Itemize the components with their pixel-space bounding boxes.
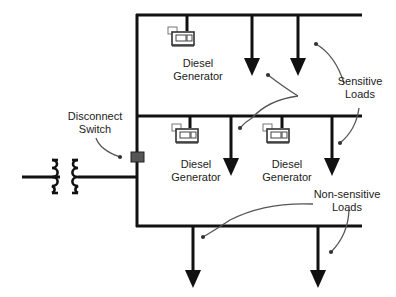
load-arrow-icon xyxy=(185,270,201,288)
transformer-icon xyxy=(52,160,78,193)
load-arrow-icon xyxy=(244,58,260,76)
load-arrow-icon xyxy=(223,158,239,176)
label-gen-mid-left: Diesel Generator xyxy=(168,158,224,184)
label-gen-mid-right: Diesel Generator xyxy=(259,158,315,184)
diesel-generator-icon xyxy=(172,124,198,143)
label-sensitive-loads: Sensitive Loads xyxy=(330,75,390,101)
label-disconnect-switch: Disconnect Switch xyxy=(64,110,126,136)
leader-line xyxy=(331,210,349,252)
load-arrow-icon xyxy=(290,58,306,76)
disconnect-switch-icon[interactable] xyxy=(131,152,144,162)
leader-line xyxy=(203,204,313,237)
leader-line xyxy=(240,96,298,128)
load-arrow-icon xyxy=(324,158,340,176)
load-arrow-icon xyxy=(310,270,326,288)
label-gen-top: Diesel Generator xyxy=(170,57,226,83)
diesel-generator-icon xyxy=(263,124,289,143)
leader-line xyxy=(340,108,359,143)
microgrid-diagram xyxy=(0,0,396,297)
leader-line xyxy=(96,138,120,157)
diesel-generator-icon xyxy=(168,27,194,46)
leader-line xyxy=(268,75,298,96)
label-nonsensitive-loads: Non-sensitive Loads xyxy=(305,188,389,214)
